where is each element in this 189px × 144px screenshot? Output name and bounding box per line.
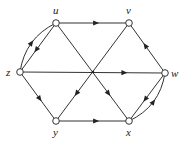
- edge-u-z: [20, 23, 56, 72]
- graph-canvas: uvwxyz: [0, 0, 189, 144]
- node-z: [17, 69, 24, 76]
- node-label-v: v: [126, 4, 131, 16]
- node-w: [162, 70, 169, 77]
- edge-u-x-arrow-icon: [105, 90, 111, 96]
- node-y: [53, 118, 60, 125]
- node-label-w: w: [171, 67, 179, 79]
- edge-z-u-arrow-icon: [28, 40, 34, 46]
- edge-z-y: [20, 72, 56, 121]
- crossing-point: [92, 71, 94, 73]
- directed-graph-diagram: uvwxyz: [0, 0, 189, 144]
- node-x: [126, 118, 133, 125]
- edge-u-z-arrow-icon: [34, 46, 40, 52]
- edge-w-v: [129, 23, 165, 73]
- edge-z-w-arrow-icon: [121, 70, 127, 75]
- node-label-x: x: [125, 126, 131, 138]
- node-label-z: z: [5, 66, 11, 78]
- edge-w-x-arrow-icon: [143, 95, 149, 101]
- edge-y-x-arrow-icon: [93, 118, 99, 123]
- edge-v-y-arrow-icon: [75, 90, 81, 96]
- node-label-y: y: [52, 126, 58, 138]
- node-label-u: u: [53, 4, 59, 16]
- edge-u-v-arrow-icon: [93, 20, 99, 25]
- edge-z-y-arrow-icon: [36, 95, 42, 101]
- node-u: [53, 20, 60, 27]
- node-v: [126, 20, 133, 27]
- edge-w-v-arrow-icon: [143, 43, 149, 49]
